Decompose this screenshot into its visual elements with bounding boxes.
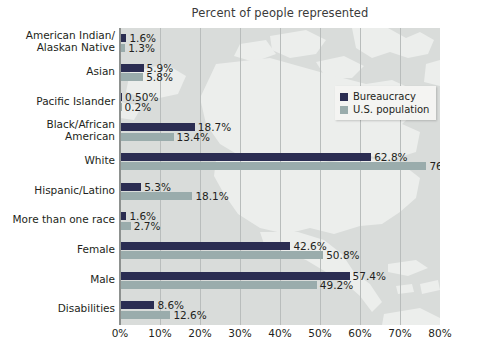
legend-swatch-icon [340, 106, 348, 114]
x-axis-ticks: 0%10%20%30%40%50%60%70%80% [120, 327, 450, 347]
x-tick-label: 40% [268, 327, 291, 339]
legend-item-bureaucracy: Bureaucracy [340, 90, 429, 103]
bar-value-label: 1.3% [128, 43, 155, 53]
x-tick-label: 60% [348, 327, 371, 339]
bar-1 [120, 44, 125, 52]
category-label: More than one race [3, 214, 115, 226]
bar-1 [120, 133, 174, 141]
bar-1 [120, 73, 143, 81]
bar-value-label: 13.4% [177, 132, 210, 142]
bar-1 [120, 281, 317, 289]
x-tick-label: 70% [388, 327, 411, 339]
category-labels: American Indian/ Alaskan NativeAsianPaci… [0, 28, 115, 325]
category-label: Asian [3, 66, 115, 78]
bar-0 [120, 242, 290, 250]
bar-1 [120, 311, 170, 319]
bar-row: 5.9%5.8% [120, 58, 440, 88]
legend-label: U.S. population [353, 104, 429, 115]
category-label: White [3, 155, 115, 167]
bar-row: 42.6%50.8% [120, 236, 440, 266]
bar-value-label: 0.2% [125, 102, 152, 112]
x-tick-label: 50% [308, 327, 331, 339]
category-label: Hispanic/Latino [3, 185, 115, 197]
bar-row: 8.6%12.6% [120, 295, 440, 325]
bar-row: 62.8%76.6% [120, 147, 440, 177]
bar-row: 5.3%18.1% [120, 177, 440, 207]
category-label: Black/African American [3, 119, 115, 142]
bar-1 [120, 222, 131, 230]
category-label: Female [3, 244, 115, 256]
bar-0 [120, 123, 195, 131]
bar-value-label: 57.4% [353, 271, 386, 281]
y-axis-line [119, 28, 121, 325]
bar-value-label: 50.8% [326, 250, 359, 260]
category-label: Male [3, 274, 115, 286]
x-tick-label: 10% [148, 327, 171, 339]
bar-row: 57.4%49.2% [120, 266, 440, 296]
bar-value-label: 5.8% [146, 72, 173, 82]
chart-title: Percent of people represented [120, 6, 440, 20]
bar-0 [120, 34, 126, 42]
bar-value-label: 49.2% [320, 280, 353, 290]
bar-1 [120, 251, 323, 259]
bar-value-label: 5.3% [144, 182, 171, 192]
x-tick-label: 0% [112, 327, 129, 339]
bar-row: 18.7%13.4% [120, 117, 440, 147]
category-label: Pacific Islander [3, 96, 115, 108]
legend-swatch-icon [340, 93, 348, 101]
legend-label: Bureaucracy [353, 91, 416, 102]
bar-0 [120, 301, 154, 309]
bar-0 [120, 64, 144, 72]
x-tick-label: 20% [188, 327, 211, 339]
category-label: Disabilities [3, 303, 115, 315]
bar-value-label: 62.8% [374, 152, 407, 162]
bar-1 [120, 192, 192, 200]
bar-0 [120, 153, 371, 161]
bar-0 [120, 183, 141, 191]
category-label: American Indian/ Alaskan Native [3, 30, 115, 53]
bar-0 [120, 212, 126, 220]
bar-value-label: 42.6% [293, 241, 326, 251]
bar-value-label: 12.6% [173, 310, 206, 320]
x-tick-label: 30% [228, 327, 251, 339]
bar-row: 1.6%1.3% [120, 28, 440, 58]
chart-legend: Bureaucracy U.S. population [335, 86, 436, 120]
bar-value-label: 2.7% [134, 221, 161, 231]
bar-chart: Percent of people represented [0, 0, 485, 356]
legend-item-us-population: U.S. population [340, 103, 429, 116]
plot-area: 1.6%1.3%5.9%5.8%0.50%0.2%18.7%13.4%62.8%… [120, 28, 440, 325]
bar-value-label: 18.1% [195, 191, 228, 201]
bar-0 [120, 272, 350, 280]
x-tick-label: 80% [428, 327, 451, 339]
bar-1 [120, 162, 426, 170]
bar-value-label: 76.6% [429, 161, 440, 171]
bar-row: 1.6%2.7% [120, 206, 440, 236]
